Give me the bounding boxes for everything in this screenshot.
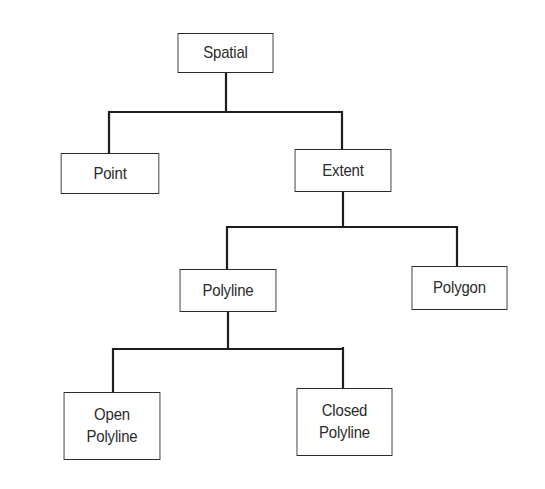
edge-polyline-children — [113, 312, 343, 392]
node-polyline-label: Polyline — [203, 280, 254, 302]
node-closed-polyline-line2: Polyline — [319, 422, 370, 444]
node-extent: Extent — [295, 149, 392, 192]
node-polygon: Polygon — [412, 266, 508, 310]
node-open-polyline: Open Polyline — [64, 392, 161, 460]
node-point: Point — [61, 153, 160, 194]
node-extent-label: Extent — [322, 160, 363, 182]
node-spatial-label: Spatial — [203, 42, 248, 64]
edge-spatial-children — [109, 73, 342, 153]
node-closed-polyline-line1: Closed — [322, 400, 368, 422]
node-polyline: Polyline — [180, 269, 277, 312]
node-polygon-label: Polygon — [433, 277, 486, 299]
node-closed-polyline: Closed Polyline — [297, 388, 393, 456]
hierarchy-diagram: Spatial Point Extent Polyline Polygon Op… — [0, 0, 545, 489]
node-point-label: Point — [93, 163, 126, 185]
node-open-polyline-line1: Open — [94, 404, 130, 426]
node-spatial: Spatial — [178, 33, 274, 73]
node-open-polyline-line2: Polyline — [87, 426, 138, 448]
edge-extent-children — [227, 192, 457, 269]
